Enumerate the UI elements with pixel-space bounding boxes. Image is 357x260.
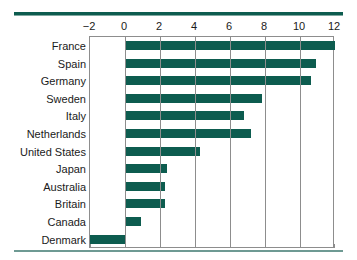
- gridline: [265, 37, 266, 247]
- bottom-rule: [14, 250, 343, 252]
- x-tick-label: 0: [121, 19, 127, 33]
- bar: [125, 76, 311, 85]
- category-label: Australia: [0, 181, 86, 193]
- gridline: [160, 37, 161, 247]
- axis-tickmark: [90, 244, 91, 248]
- x-tick-label: 6: [226, 19, 232, 33]
- axis-tickmark: [334, 244, 335, 248]
- x-tick-label: −2: [83, 19, 96, 33]
- bar: [125, 94, 262, 103]
- chart-figure: −2024681012 FranceSpainGermanySwedenItal…: [0, 0, 357, 260]
- gridline: [125, 37, 126, 247]
- category-label: France: [0, 40, 86, 52]
- axis-tickmark: [300, 244, 301, 248]
- bar: [90, 235, 125, 244]
- x-tick-label: 4: [191, 19, 197, 33]
- x-tick-label: 10: [293, 19, 305, 33]
- top-rule-hairline: [14, 15, 343, 16]
- bar: [125, 111, 244, 120]
- axis-tickmark: [265, 244, 266, 248]
- bar: [125, 129, 251, 138]
- category-label: Spain: [0, 58, 86, 70]
- x-axis-tick-labels: −2024681012: [0, 19, 357, 33]
- category-label: Germany: [0, 75, 86, 87]
- gridline: [300, 37, 301, 247]
- category-label: Denmark: [0, 234, 86, 246]
- axis-tickmark: [230, 244, 231, 248]
- bar: [125, 59, 316, 68]
- x-tick-label: 8: [261, 19, 267, 33]
- plot-area: [89, 36, 334, 248]
- gridline: [230, 37, 231, 247]
- x-tick-label: 12: [328, 19, 340, 33]
- axis-tickmark: [125, 244, 126, 248]
- bar: [125, 147, 200, 156]
- bar: [125, 217, 141, 226]
- axis-tickmark: [195, 244, 196, 248]
- category-label: Britain: [0, 198, 86, 210]
- category-label: Sweden: [0, 93, 86, 105]
- category-label: Canada: [0, 216, 86, 228]
- category-label: Netherlands: [0, 128, 86, 140]
- gridline: [195, 37, 196, 247]
- x-tick-label: 2: [156, 19, 162, 33]
- category-label: Italy: [0, 110, 86, 122]
- category-label: Japan: [0, 163, 86, 175]
- axis-tickmark: [160, 244, 161, 248]
- category-label: United States: [0, 146, 86, 158]
